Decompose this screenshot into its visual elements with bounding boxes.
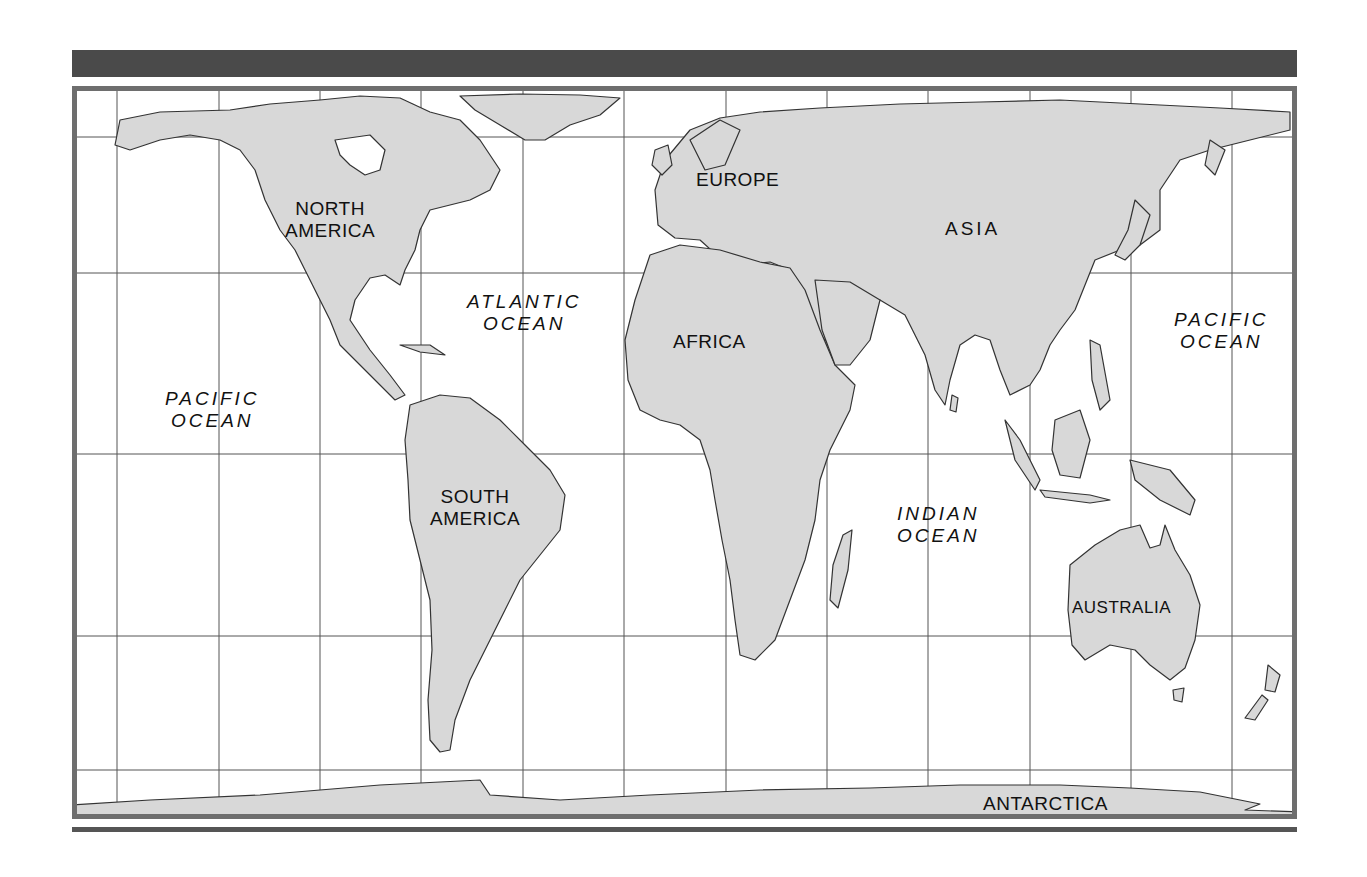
world-map [77,91,1292,814]
label-europe: EUROPE [696,169,779,191]
label-south-america: SOUTH AMERICA [430,486,520,530]
label-north-america: NORTH AMERICA [285,198,375,242]
header-bar [72,50,1297,77]
label-pacific-ocean-east: PACIFIC OCEAN [1174,309,1269,353]
label-africa: AFRICA [673,331,746,353]
label-indian-ocean: INDIAN OCEAN [897,503,980,547]
footer-rule [72,827,1297,832]
world-map-frame: NORTH AMERICA EUROPE ASIA AFRICA SOUTH A… [72,86,1297,819]
greenland-shape [460,94,620,140]
label-pacific-ocean-west: PACIFIC OCEAN [165,388,260,432]
antarctica-shape [77,780,1292,814]
label-australia: AUSTRALIA [1072,597,1171,619]
label-asia: ASIA [945,218,1000,240]
label-atlantic-ocean: ATLANTIC OCEAN [467,291,581,335]
south-america-shape [405,395,565,752]
label-antarctica: ANTARCTICA [983,793,1108,815]
